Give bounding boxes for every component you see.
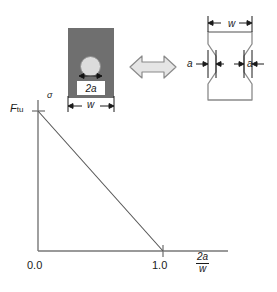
stress-vs-crack-length-chart: [0, 0, 277, 292]
x-axis-label-numerator: 2a: [196, 252, 209, 263]
figure-root: 2a w: [0, 0, 277, 292]
ftu-symbol: F: [10, 102, 17, 114]
x-tick-label-0: 0.0: [27, 260, 42, 271]
y-tick-label-ftu: Ftu: [10, 103, 23, 114]
data-line-net-section-strength: [38, 111, 163, 251]
x-axis-label-denominator: w: [196, 263, 209, 275]
ftu-subscript: tu: [17, 105, 24, 114]
x-axis-label: 2a w: [196, 252, 209, 274]
y-axis-label: σ: [47, 91, 52, 100]
x-tick-label-1: 1.0: [152, 260, 167, 271]
